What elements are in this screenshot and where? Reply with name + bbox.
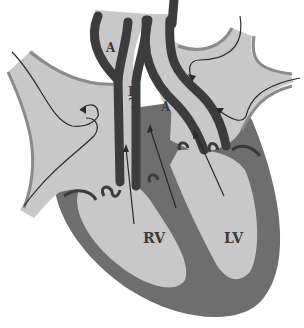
label-right-ventricle: RV: [143, 230, 166, 246]
heart-diagram: A P T A RV LV: [0, 0, 304, 328]
label-pulmonary-t: T: [129, 97, 138, 111]
label-aorta-lower: A: [160, 100, 171, 114]
label-aorta-upper: A: [105, 41, 116, 55]
label-left-ventricle: LV: [224, 230, 244, 246]
